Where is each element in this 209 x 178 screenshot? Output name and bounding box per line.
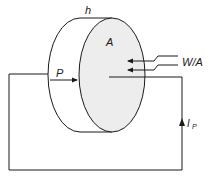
label-power-flux: W/A: [182, 56, 203, 68]
label-polarization-p: P: [56, 67, 64, 79]
label-current-i: I: [187, 118, 190, 129]
current-arrow-icon: [179, 118, 185, 126]
pyroelectric-disk-diagram: h A W/A P I P: [0, 0, 209, 178]
disk-back-face-arc: [48, 18, 80, 132]
label-current-subscript: P: [192, 123, 197, 130]
label-area-a: A: [105, 36, 113, 48]
label-thickness-h: h: [85, 4, 91, 16]
